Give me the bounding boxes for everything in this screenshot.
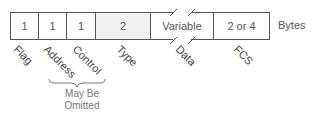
break-marks-icon bbox=[150, 6, 213, 46]
label-data: Data bbox=[174, 43, 199, 68]
unit-label: Bytes bbox=[278, 19, 306, 31]
field-flag-size: 1 bbox=[10, 12, 38, 40]
label-type: Type bbox=[115, 43, 140, 68]
brace-icon bbox=[48, 78, 106, 88]
omit-note-line2: Omitted bbox=[52, 100, 112, 112]
field-control-size: 1 bbox=[66, 12, 95, 40]
field-type-size: 2 bbox=[95, 12, 150, 40]
field-address-size: 1 bbox=[38, 12, 66, 40]
label-fcs: FCS bbox=[232, 43, 256, 67]
label-flag: Flag bbox=[12, 43, 36, 67]
omit-note: May Be Omitted bbox=[52, 88, 112, 112]
omit-note-line1: May Be bbox=[52, 88, 112, 100]
field-fcs-size: 2 or 4 bbox=[213, 12, 270, 40]
